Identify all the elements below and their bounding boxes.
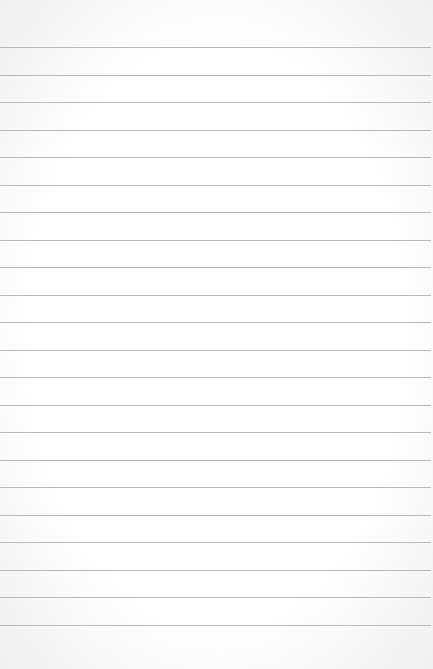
ruled-line [0,570,431,571]
ruled-line [0,597,431,598]
ruled-line [0,350,431,351]
ruled-line [0,405,431,406]
ruled-line [0,102,431,103]
ruled-line [0,542,431,543]
ruled-line [0,515,431,516]
ruled-line [0,157,431,158]
ruled-line [0,240,431,241]
ruled-line [0,47,431,48]
ruled-line [0,267,431,268]
ruled-line [0,322,431,323]
ruled-line [0,212,431,213]
ruled-line [0,487,431,488]
ruled-line [0,460,431,461]
ruled-line [0,625,431,626]
ruled-line [0,377,431,378]
ruled-line [0,75,431,76]
ruled-line [0,295,431,296]
ruled-line [0,130,431,131]
lined-paper [0,0,433,669]
ruled-line [0,185,431,186]
ruled-line [0,432,431,433]
